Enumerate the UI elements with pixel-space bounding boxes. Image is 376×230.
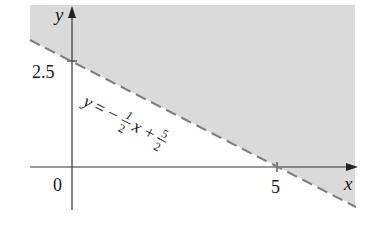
inequality-graph: y x 2.5 5 0 y = − 1 2 x + 5 2	[0, 0, 376, 230]
shaded-region	[30, 5, 355, 206]
x-tick-label: 5	[271, 177, 280, 197]
x-axis-label: x	[343, 173, 353, 194]
y-tick-label: 2.5	[32, 62, 55, 82]
frac2-den: 2	[151, 139, 163, 154]
frac1-den: 2	[116, 121, 128, 136]
origin-label: 0	[53, 175, 62, 195]
y-axis-label: y	[53, 4, 64, 25]
equation-equals-minus: = −	[91, 96, 122, 125]
